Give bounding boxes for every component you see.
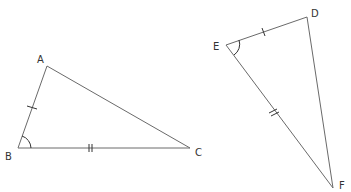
side-ef [226,45,333,188]
diagram-canvas: A B C E D F [0,0,351,192]
side-ac [47,66,190,148]
angle-arc-b [22,136,31,148]
vertex-label-d: D [311,8,319,19]
double-tick-mark-ef [269,109,279,116]
vertex-label-a: A [37,54,44,65]
vertex-label-e: E [213,41,219,52]
vertex-label-b: B [5,151,12,162]
triangle-edf: E D F [213,8,345,191]
vertex-label-f: F [339,180,345,191]
side-df [307,17,333,188]
triangle-abc: A B C [5,54,202,162]
vertex-label-c: C [195,147,202,158]
side-ed [226,17,307,45]
